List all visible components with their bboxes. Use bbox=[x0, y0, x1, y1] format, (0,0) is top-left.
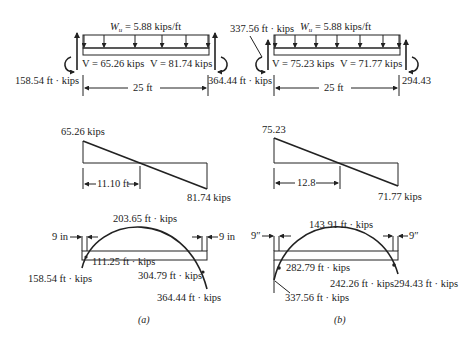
left-face-moment-label-b: 282.79 ft · kips bbox=[286, 262, 350, 273]
shear-left-label-a: V = 65.26 kips bbox=[82, 58, 144, 69]
moment-left-label-b: 337.56 ft · kips bbox=[230, 23, 294, 34]
beam-a bbox=[83, 48, 209, 55]
load-arrows-b bbox=[275, 35, 399, 47]
caption-b: (b) bbox=[334, 314, 346, 326]
zero-shear-distance-label-a: 11.10 ft bbox=[97, 178, 129, 189]
shear-diagram-b: 75.23 12.8 71.77 kips bbox=[262, 124, 422, 202]
right-end-moment-label-a: 364.44 ft · kips bbox=[157, 292, 221, 303]
right-offset-label-a: 9 in bbox=[219, 231, 236, 242]
left-offset-label-a: 9 in bbox=[52, 231, 69, 242]
moment-diagram-a: 203.65 ft · kips 9 in 9 in 111.25 ft · k… bbox=[28, 213, 236, 303]
left-face-moment-label-a: 111.25 ft · kips bbox=[92, 256, 155, 267]
beam-analysis-figure: Wu = 5.88 kips/ft V = 65.26 kips V = 81.… bbox=[0, 0, 471, 338]
moment-arrow-left-a bbox=[65, 57, 74, 72]
distributed-load-label-a: Wu = 5.88 kips/ft bbox=[110, 21, 181, 34]
distributed-load-label-b: Wu = 5.88 kips/ft bbox=[300, 21, 371, 34]
panel-a: Wu = 5.88 kips/ft V = 65.26 kips V = 81.… bbox=[15, 21, 272, 326]
beam-b bbox=[274, 48, 400, 55]
moment-leader-b bbox=[250, 36, 262, 57]
moment-arrow-right-a bbox=[218, 57, 227, 72]
shear-right-label-a: V = 81.74 kips bbox=[150, 58, 212, 69]
right-face-moment-label-a: 304.79 ft · kips bbox=[138, 270, 202, 281]
caption-a: (a) bbox=[138, 314, 150, 326]
moment-baseline-b bbox=[274, 251, 398, 260]
load-arrows-a bbox=[84, 35, 208, 47]
span-label-b: 25 ft bbox=[324, 82, 344, 93]
shear-min-label-a: 81.74 kips bbox=[187, 192, 231, 203]
left-end-moment-label-a: 158.54 ft · kips bbox=[28, 273, 92, 284]
shear-min-label-b: 71.77 kips bbox=[378, 191, 422, 202]
load-block-a bbox=[83, 35, 209, 48]
right-end-moment-label-b: 294.43 ft · kips bbox=[394, 278, 458, 289]
shear-left-label-b: V = 75.23 kips bbox=[272, 58, 334, 69]
shear-max-label-b: 75.23 bbox=[262, 124, 286, 135]
moment-peak-label-b: 143.91 ft · kips bbox=[309, 219, 373, 230]
moment-left-label-a: 158.54 ft · kips bbox=[15, 75, 79, 86]
span-label-a: 25 ft bbox=[133, 82, 153, 93]
right-offset-label-b: 9″ bbox=[409, 230, 419, 241]
moment-right-label-b: 294.43 bbox=[402, 75, 431, 86]
moment-arrow-right-b bbox=[409, 57, 418, 72]
moment-peak-label-a: 203.65 ft · kips bbox=[113, 213, 177, 224]
left-end-moment-label-b: 337.56 ft · kips bbox=[285, 292, 349, 303]
shear-max-label-a: 65.26 kips bbox=[61, 126, 105, 137]
shear-diagram-a: 65.26 kips 11.10 ft 81.74 kips bbox=[61, 126, 231, 203]
moment-arrow-left-b bbox=[256, 57, 265, 72]
moment-diagram-b: 143.91 ft · kips 9″ 9″ 282.79 ft · kips … bbox=[251, 219, 458, 303]
shear-right-label-b: V = 71.77 kips bbox=[340, 58, 402, 69]
left-offset-label-b: 9″ bbox=[251, 230, 261, 241]
moment-right-label-a: 364.44 ft · kips bbox=[208, 75, 272, 86]
panel-b: Wu = 5.88 kips/ft 337.56 ft · kips V = 7… bbox=[230, 21, 458, 326]
right-face-moment-label-b: 242.26 ft · kips bbox=[330, 278, 394, 289]
zero-shear-distance-label-b: 12.8 bbox=[297, 177, 315, 188]
